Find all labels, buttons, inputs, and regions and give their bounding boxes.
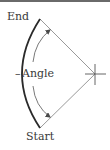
angle-label-dash: – — [15, 68, 21, 79]
radius-line-start — [40, 74, 95, 128]
angle-arrow-upper — [33, 30, 50, 62]
angle-label: Angle — [22, 68, 54, 79]
start-label: Start — [26, 131, 54, 142]
end-label: End — [7, 11, 29, 22]
angle-arrow-lower — [33, 86, 50, 117]
radius-line-end — [40, 19, 95, 74]
arc-angle-diagram: End – Angle Start — [0, 0, 110, 150]
